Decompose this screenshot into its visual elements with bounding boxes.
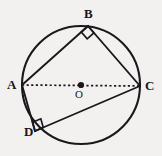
segment-ab: [22, 26, 88, 85]
vertex-label-b: B: [84, 7, 93, 20]
vertex-label-c: C: [145, 79, 154, 92]
vertex-label-d: D: [24, 125, 33, 138]
vertex-label-a: A: [7, 78, 16, 91]
geometry-figure: A B C D O: [0, 0, 162, 156]
center-label-o: O: [75, 89, 83, 100]
